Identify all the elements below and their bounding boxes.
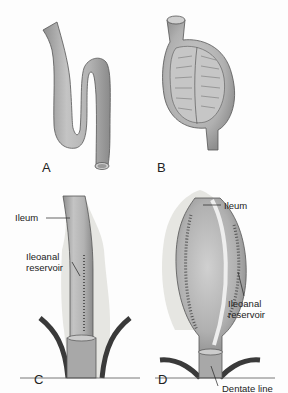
panel-b-opened-pouch: [163, 16, 235, 150]
label-d-reservoir-2: reservoir: [228, 309, 265, 320]
label-c-reservoir-1: Ileoanal: [26, 251, 59, 262]
d-levator-right: [220, 360, 260, 378]
panel-label-a: A: [42, 160, 51, 175]
d-anal-canal: [199, 352, 222, 378]
panel-label-c: C: [34, 372, 43, 387]
ileum-lumen-inner: [98, 164, 107, 168]
label-c-ileum: Ileum: [15, 212, 38, 223]
afferent-limb-lumen: [167, 16, 185, 24]
panel-a-folded-ileum: [43, 22, 110, 170]
panel-label-b: B: [157, 160, 166, 175]
label-d-ileum: Ileum: [224, 200, 247, 211]
panel-label-d: D: [158, 372, 167, 387]
c-anastomosis: [68, 335, 96, 341]
label-d-reservoir-1: Ileoanal: [228, 298, 261, 309]
diagram-canvas: [0, 0, 288, 393]
c-anal-canal: [67, 338, 96, 378]
label-c-reservoir-2: reservoir: [26, 262, 63, 273]
ileal-pouch-diagram: A B C D Ileum Ileoanal reservoir Ileum I…: [0, 0, 288, 393]
panel-d-completed-reservoir: [155, 190, 275, 386]
panel-c-pouch-in-pelvis: [20, 196, 140, 378]
ileum-loop: [43, 22, 110, 168]
d-anastomosis: [199, 349, 223, 355]
label-d-dentate-line: Dentate line: [222, 383, 273, 393]
